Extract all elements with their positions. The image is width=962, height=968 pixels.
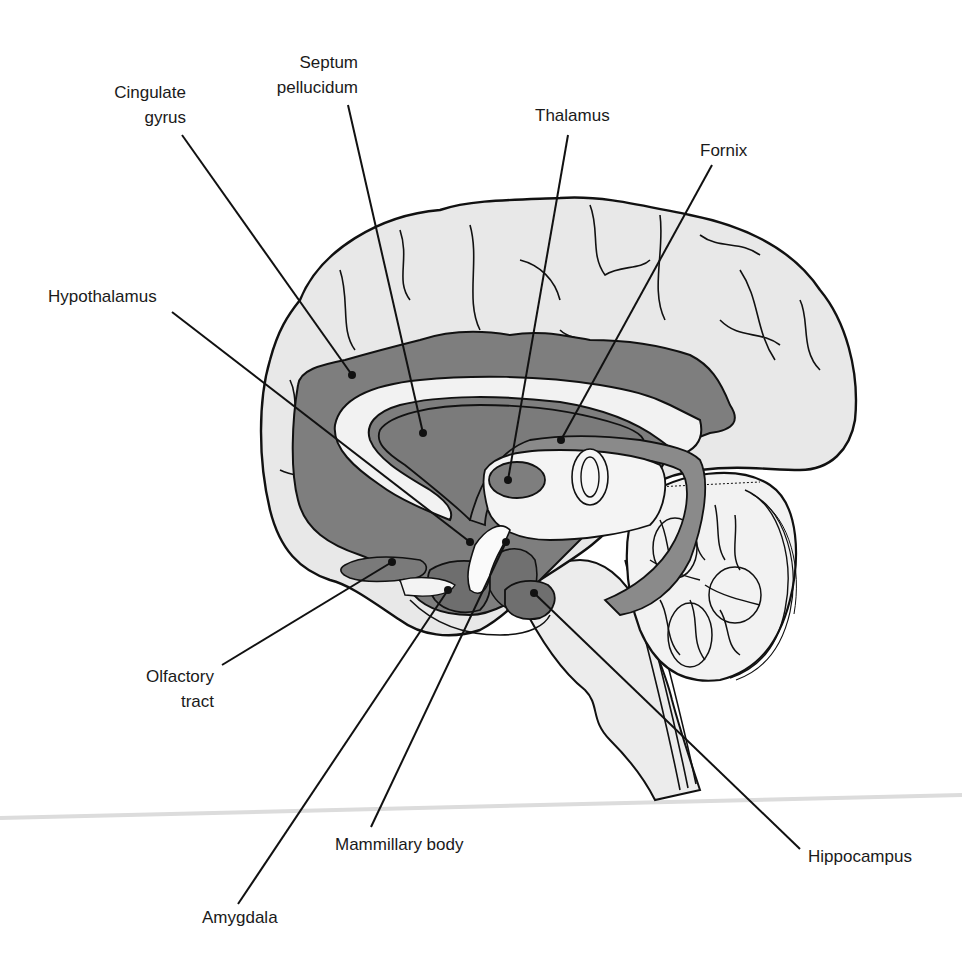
limbic-system-diagram xyxy=(0,0,962,968)
leader-olfactory-tract xyxy=(222,562,392,665)
label-text: Thalamus xyxy=(535,103,610,128)
label-hippocampus: Hippocampus xyxy=(808,844,912,869)
label-hypothalamus: Hypothalamus xyxy=(48,284,157,309)
label-text: Olfactory xyxy=(118,664,214,689)
label-thalamus: Thalamus xyxy=(535,103,610,128)
label-olfactory-tract: Olfactory tract xyxy=(118,664,214,714)
label-text: Mammillary body xyxy=(335,832,463,857)
label-text: gyrus xyxy=(92,105,186,130)
label-text: Hypothalamus xyxy=(48,284,157,309)
label-text: pellucidum xyxy=(250,75,358,100)
label-text: Amygdala xyxy=(202,905,278,930)
thalamus-region xyxy=(489,462,545,498)
label-amygdala: Amygdala xyxy=(202,905,278,930)
label-text: tract xyxy=(118,689,214,714)
label-cingulate-gyrus: Cingulate gyrus xyxy=(92,80,186,130)
label-text: Septum xyxy=(250,50,358,75)
hippocampus-region xyxy=(505,581,555,619)
label-text: Cingulate xyxy=(92,80,186,105)
label-text: Fornix xyxy=(700,138,747,163)
label-text: Hippocampus xyxy=(808,844,912,869)
label-fornix: Fornix xyxy=(700,138,747,163)
page-rule-line xyxy=(0,795,962,818)
label-mammillary-body: Mammillary body xyxy=(335,832,463,857)
label-septum-pellucidum: Septum pellucidum xyxy=(250,50,358,100)
